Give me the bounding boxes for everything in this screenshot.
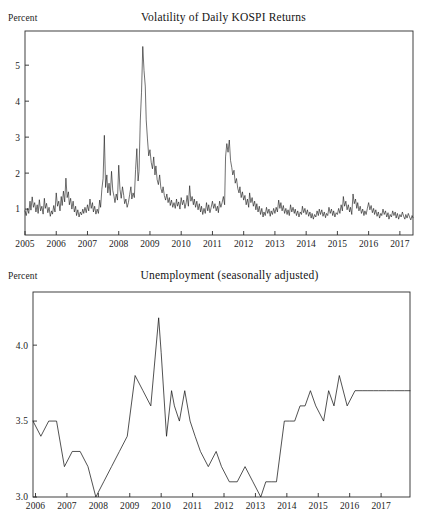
volatility-line-chart: 1234520052006200720082009201020112012201… — [0, 0, 423, 258]
x-axis-tick-label: 2008 — [109, 239, 129, 249]
data-series-line — [33, 318, 410, 497]
x-axis-tick-label: 2008 — [89, 501, 109, 511]
x-axis-tick-label: 2007 — [57, 501, 77, 511]
x-axis-tick-label: 2017 — [371, 501, 391, 511]
unemployment-line-chart: 3.03.54.02006200720082009201020112012201… — [0, 258, 423, 516]
y-axis-tick-label: 3.5 — [16, 416, 28, 426]
y-axis-tick-label: 5 — [15, 61, 20, 71]
chart-panel-volatility: Percent Volatility of Daily KOSPI Return… — [0, 0, 423, 258]
x-axis-tick-label: 2009 — [120, 501, 140, 511]
y-axis-tick-label: 2 — [15, 169, 20, 179]
x-axis-tick-label: 2017 — [390, 239, 410, 249]
x-axis-tick-label: 2013 — [246, 501, 266, 511]
x-axis-tick-label: 2015 — [309, 501, 329, 511]
chart-panel-unemployment: Percent Unemployment (seasonally adjuste… — [0, 258, 423, 516]
y-axis-tick-label: 4.0 — [16, 341, 28, 351]
x-axis-tick-label: 2014 — [296, 239, 316, 249]
y-axis-tick-label: 1 — [15, 204, 20, 214]
x-axis-tick-label: 2012 — [234, 239, 254, 249]
x-axis-tick-label: 2011 — [183, 501, 202, 511]
x-axis-tick-label: 2010 — [171, 239, 191, 249]
x-axis-tick-label: 2015 — [328, 239, 348, 249]
x-axis-tick-label: 2014 — [277, 501, 297, 511]
x-axis-tick-label: 2009 — [140, 239, 160, 249]
figure-page: Percent Volatility of Daily KOSPI Return… — [0, 0, 423, 516]
x-axis-tick-label: 2006 — [47, 239, 67, 249]
x-axis-tick-label: 2007 — [78, 239, 98, 249]
x-axis-tick-label: 2010 — [151, 501, 171, 511]
y-axis-tick-label: 3 — [15, 133, 20, 143]
data-series-line — [25, 46, 413, 219]
x-axis-tick-label: 2006 — [26, 501, 46, 511]
x-axis-tick-label: 2013 — [265, 239, 285, 249]
x-axis-tick-label: 2016 — [359, 239, 379, 249]
x-axis-tick-label: 2012 — [214, 501, 234, 511]
x-axis-tick-label: 2005 — [15, 239, 35, 249]
y-axis-tick-label: 4 — [15, 97, 20, 107]
x-axis-tick-label: 2011 — [203, 239, 222, 249]
x-axis-tick-label: 2016 — [340, 501, 360, 511]
